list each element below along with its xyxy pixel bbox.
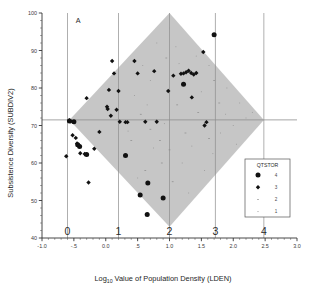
x-tick-label: 0.0	[102, 243, 110, 249]
data-point-dash	[159, 140, 161, 141]
legend-marker-4	[256, 173, 261, 178]
data-point-dash	[172, 181, 174, 182]
data-point-dot	[233, 125, 234, 126]
data-point-dot	[147, 104, 148, 105]
data-point-dot	[212, 153, 213, 154]
legend-title: QTSTOR	[257, 162, 279, 168]
y-axis-title: Subsistence Diversity (SUBDIV2)	[6, 88, 15, 197]
data-point-dash	[161, 163, 163, 164]
data-point-circle	[71, 119, 76, 124]
y-tick-label: 40	[31, 235, 37, 241]
y-tick-label: 90	[31, 48, 37, 54]
data-point-dot	[153, 148, 154, 149]
x-tick-label: .5	[135, 243, 140, 249]
panel-label: A	[76, 16, 81, 25]
data-point-dot	[226, 88, 227, 89]
x-tick-label: 1.0	[166, 243, 174, 249]
secondary-x-label: 4	[261, 225, 267, 237]
data-point-dot	[179, 63, 180, 64]
data-point-dot	[175, 46, 176, 47]
x-tick-label: -1.0	[37, 243, 46, 249]
data-point-dash	[208, 138, 210, 139]
data-point-dash	[197, 112, 199, 113]
data-point-dot	[150, 80, 151, 81]
legend-marker-1	[258, 211, 259, 212]
data-point-circle	[67, 119, 72, 124]
data-point-circle	[161, 195, 166, 200]
legend-label-2: 2	[275, 197, 278, 202]
scatter-plot-figure: 405060708090100 -1.0-.50.0.51.01.52.02.5…	[0, 0, 314, 287]
data-point-dot	[239, 103, 240, 104]
data-point-dot	[169, 28, 170, 29]
data-point-dot	[137, 178, 138, 179]
data-point-dot	[156, 43, 157, 44]
legend-label-4: 4	[275, 173, 278, 178]
data-point-dash	[149, 129, 151, 130]
data-point-dot	[252, 112, 253, 113]
data-point-circle	[181, 82, 186, 87]
data-point-dash	[169, 150, 171, 151]
data-point-dot	[201, 91, 202, 92]
legend-marker-2	[257, 199, 259, 200]
data-point-dot	[142, 65, 143, 66]
data-point-dot	[128, 131, 129, 132]
legend-label-1: 1	[275, 209, 278, 214]
x-tick-label: 2.5	[261, 243, 269, 249]
x-tick-label: 1.5	[198, 243, 206, 249]
data-point-dash	[185, 133, 187, 134]
data-point-dot	[188, 193, 189, 194]
secondary-x-label: 3	[212, 225, 218, 237]
data-point-dash	[130, 140, 132, 141]
x-axis-title: Log10 Value of Population Density (LDEN)	[94, 274, 231, 284]
data-point-dot	[164, 123, 165, 124]
chart-canvas: 405060708090100 -1.0-.50.0.51.01.52.02.5…	[0, 0, 314, 287]
y-tick-label: 100	[28, 10, 37, 16]
data-point-dot	[246, 118, 247, 119]
data-point-circle	[84, 152, 89, 157]
y-tick-label: 50	[31, 198, 37, 204]
x-axis-title-post: Value of Population Density (LDEN)	[113, 274, 232, 283]
x-tick-label: 3.0	[293, 243, 301, 249]
legend-box	[245, 159, 290, 217]
data-point-dash	[176, 105, 178, 106]
data-point-circle	[212, 32, 217, 37]
data-point-dot	[225, 114, 226, 115]
x-axis-title-text: Log10 Value of Population Density (LDEN)	[94, 274, 231, 284]
data-point-dot	[209, 65, 210, 66]
x-tick-label: -.5	[71, 243, 77, 249]
data-point-dot	[236, 144, 237, 145]
data-point-dash	[213, 80, 215, 81]
data-point-dash	[165, 58, 167, 59]
data-point-circle	[145, 212, 150, 217]
legend-label-3: 3	[275, 185, 278, 190]
data-point-dot	[196, 56, 197, 57]
secondary-x-label: 2	[167, 225, 173, 237]
y-tick-label: 60	[31, 160, 37, 166]
data-point-dash	[218, 103, 220, 104]
x-axis-title-pre: Log	[94, 274, 106, 283]
y-tick-label: 80	[31, 85, 37, 91]
data-point-circle	[138, 192, 143, 197]
legend[interactable]: QTSTOR 4321	[245, 159, 290, 217]
data-point-dot	[182, 163, 183, 164]
data-point-circle	[123, 153, 128, 158]
secondary-x-label: 0	[65, 225, 71, 237]
data-point-dot	[134, 95, 135, 96]
y-tick-label: 70	[31, 123, 37, 129]
data-point-dot	[204, 170, 205, 171]
data-point-circle	[77, 144, 82, 149]
data-point-circle	[145, 180, 150, 185]
data-point-dash	[144, 170, 146, 171]
x-tick-label: 2.0	[230, 243, 238, 249]
y-axis-title-text: Subsistence Diversity (SUBDIV2)	[6, 88, 15, 197]
data-point-dot	[220, 133, 221, 134]
data-point-dash	[140, 114, 142, 115]
secondary-x-label: 1	[116, 225, 122, 237]
data-point-dot	[191, 146, 192, 147]
